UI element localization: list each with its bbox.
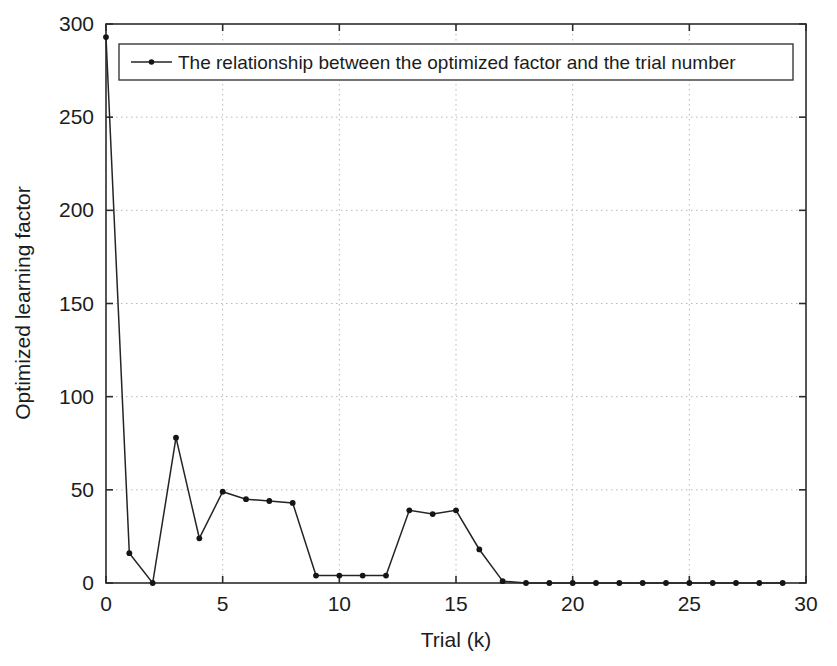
- data-point-marker: [780, 580, 786, 586]
- y-tick-label: 250: [59, 105, 94, 128]
- x-tick-label: 15: [444, 592, 467, 615]
- data-point-marker: [243, 496, 249, 502]
- data-point-marker: [523, 580, 529, 586]
- data-point-marker: [266, 498, 272, 504]
- y-tick-labels: 050100150200250300: [59, 12, 94, 594]
- x-tick-labels: 051015202530: [100, 592, 818, 615]
- data-point-marker: [383, 573, 389, 579]
- x-tick-label: 20: [561, 592, 584, 615]
- series-markers: [103, 34, 785, 586]
- data-point-marker: [453, 507, 459, 513]
- data-point-marker: [640, 580, 646, 586]
- legend-entry-label: The relationship between the optimized f…: [178, 52, 736, 73]
- x-tick-label: 5: [217, 592, 229, 615]
- y-tick-label: 150: [59, 292, 94, 315]
- data-point-marker: [196, 535, 202, 541]
- data-point-marker: [756, 580, 762, 586]
- data-point-marker: [103, 34, 109, 40]
- series-polyline: [106, 37, 783, 583]
- y-tick-label: 200: [59, 198, 94, 221]
- x-tick-label: 10: [328, 592, 351, 615]
- legend: The relationship between the optimized f…: [119, 44, 793, 80]
- data-point-marker: [313, 573, 319, 579]
- y-tick-label: 0: [82, 571, 94, 594]
- x-axis-title: Trial (k): [421, 628, 491, 651]
- data-point-marker: [336, 573, 342, 579]
- data-point-marker: [570, 580, 576, 586]
- data-point-marker: [616, 580, 622, 586]
- line-chart: 051015202530 050100150200250300 Trial (k…: [0, 0, 837, 666]
- data-point-marker: [220, 489, 226, 495]
- y-tick-label: 300: [59, 12, 94, 35]
- data-point-marker: [733, 580, 739, 586]
- data-point-marker: [406, 507, 412, 513]
- y-axis-title: Optimized learning factor: [11, 186, 34, 419]
- data-point-marker: [430, 511, 436, 517]
- data-point-marker: [546, 580, 552, 586]
- y-tick-label: 100: [59, 385, 94, 408]
- x-tick-label: 0: [100, 592, 112, 615]
- x-tick-label: 30: [794, 592, 817, 615]
- data-point-marker: [173, 435, 179, 441]
- data-point-marker: [126, 550, 132, 556]
- data-point-marker: [663, 580, 669, 586]
- data-point-marker: [500, 578, 506, 584]
- data-point-marker: [593, 580, 599, 586]
- data-point-marker: [476, 547, 482, 553]
- legend-sample-marker: [149, 59, 155, 65]
- data-point-marker: [686, 580, 692, 586]
- data-point-marker: [710, 580, 716, 586]
- grid-lines: [106, 24, 806, 583]
- data-point-marker: [290, 500, 296, 506]
- data-point-marker: [360, 573, 366, 579]
- x-tick-label: 25: [678, 592, 701, 615]
- y-tick-label: 50: [71, 478, 94, 501]
- figure-container: 051015202530 050100150200250300 Trial (k…: [0, 0, 837, 666]
- data-point-marker: [150, 580, 156, 586]
